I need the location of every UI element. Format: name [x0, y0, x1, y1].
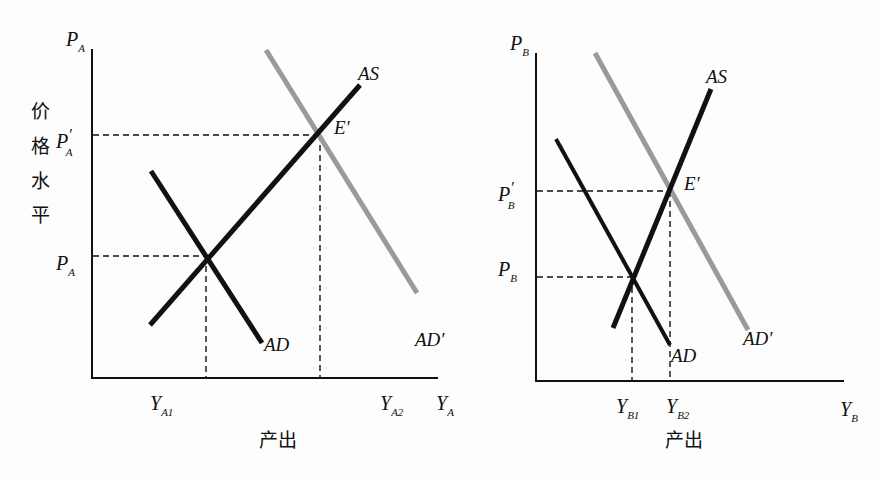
ad-prime-label-b: AD′ [741, 328, 773, 349]
x-axis-label-a: YA [436, 392, 454, 418]
tick-pa-prime: P′A [55, 126, 73, 158]
y-title-char-3: 水 [31, 170, 50, 192]
x-title-b: 产出 [665, 429, 703, 451]
ad-prime-label-a: AD′ [413, 329, 445, 350]
ad-label-b: AD [669, 345, 697, 366]
tick-pa: PA [55, 252, 75, 278]
ad-label-a: AD [262, 334, 290, 355]
tick-pb-prime: P′B [497, 179, 515, 211]
x-axis-label-b: YB [840, 398, 858, 424]
panel-b: PB P′B PB YB1 YB2 YB AS E′ AD AD′ 产出 [497, 32, 858, 451]
y-axis-label-a: PA [65, 28, 85, 54]
y-title-char-2: 格 [31, 135, 50, 157]
tick-yb1: YB1 [616, 395, 639, 421]
y-axis-label-b: PB [509, 32, 529, 58]
as-label-a: AS [356, 63, 380, 84]
tick-yb2: YB2 [666, 395, 690, 421]
as-curve-a [150, 85, 360, 325]
y-title-char-4: 平 [31, 204, 50, 226]
tick-pb: PB [497, 258, 517, 284]
as-label-b: AS [704, 66, 728, 87]
tick-ya2: YA2 [380, 392, 404, 418]
panel-a: PA 价 格 水 平 P′A PA YA1 YA2 YA AS E′ AD AD… [31, 28, 454, 451]
e-prime-label-b: E′ [683, 173, 701, 194]
ad-curve-b [556, 139, 670, 345]
ad-prime-curve-a [266, 50, 417, 293]
diagram-canvas: PA 价 格 水 平 P′A PA YA1 YA2 YA AS E′ AD AD… [0, 0, 878, 481]
y-title-char-1: 价 [31, 100, 50, 122]
as-curve-b [613, 89, 711, 328]
x-title-a: 产出 [259, 429, 297, 451]
e-prime-label-a: E′ [333, 117, 351, 138]
tick-ya1: YA1 [150, 392, 173, 418]
